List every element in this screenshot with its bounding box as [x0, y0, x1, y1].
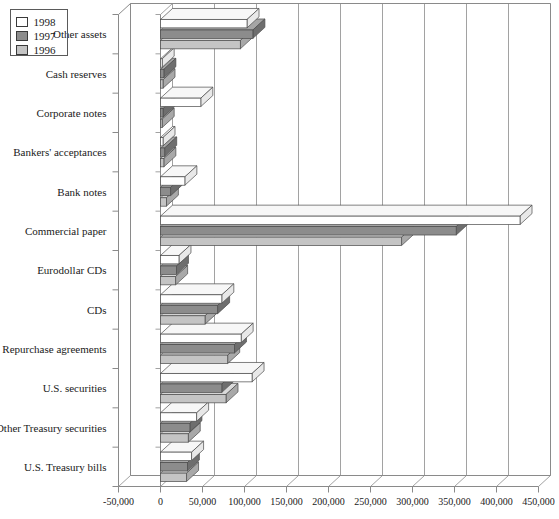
bar-front-face: [161, 266, 177, 274]
bar-front-face: [161, 305, 218, 313]
bar-front-face: [161, 227, 457, 235]
bar-front-face: [161, 109, 164, 117]
category-label: Eurodollar CDs: [37, 264, 106, 276]
x-tick-label: 150,000: [270, 496, 303, 507]
x-tick-label: -50,000: [103, 496, 134, 507]
bar-front-face: [161, 334, 242, 342]
category-label: Other Treasury securities: [0, 422, 107, 434]
legend-swatch: [17, 32, 28, 41]
x-tick-label: 450,000: [522, 496, 555, 507]
bar-front-face: [161, 98, 201, 106]
bar-front-face: [161, 148, 165, 156]
bar-front-face: [161, 19, 248, 27]
bar-front-face: [161, 40, 241, 48]
bar-front-face: [161, 255, 179, 263]
chart-canvas: Other assetsCash reservesCorporate notes…: [0, 0, 559, 519]
bar-front-face: [161, 237, 402, 245]
bar-front-face: [161, 316, 206, 324]
x-tick-label: 250,000: [354, 496, 387, 507]
bar-front-face: [161, 198, 167, 206]
bar-front-face: [161, 434, 189, 442]
bar-top-face: [161, 323, 254, 334]
bar-front-face: [161, 69, 164, 77]
category-label: Corporate notes: [37, 107, 107, 119]
gridline-floor-connector: [455, 476, 467, 487]
legend-swatch: [17, 46, 28, 55]
y-axis-top-connector: [119, 4, 131, 15]
category-label: Other assets: [53, 28, 106, 40]
x-tick-label: 350,000: [438, 496, 471, 507]
bar-front-face: [161, 473, 187, 481]
bar-front-face: [161, 413, 197, 421]
x-tick-label: 50,000: [189, 496, 217, 507]
bar-front-face: [161, 158, 164, 166]
x-tick-label: 0: [158, 496, 163, 507]
category-label: Commercial paper: [25, 225, 107, 237]
x-tick-label: 300,000: [396, 496, 429, 507]
x-tick-label: 400,000: [480, 496, 513, 507]
gridline-floor-connector: [539, 476, 551, 487]
bar-front-face: [161, 119, 163, 127]
category-label: Repurchase agreements: [2, 343, 106, 355]
legend-label: 1998: [34, 16, 57, 28]
bar-front-face: [161, 177, 185, 185]
bar-top-face: [161, 205, 533, 216]
bar-3d: [161, 284, 234, 303]
bar-front-face: [161, 295, 222, 303]
bar-group: [161, 8, 533, 481]
bar-top-face: [161, 362, 265, 373]
gridline-floor-connector: [287, 476, 299, 487]
bar-front-face: [161, 276, 176, 284]
gridline-floor-connector: [413, 476, 425, 487]
category-label: Bankers' acceptances: [13, 146, 106, 158]
bar-3d: [161, 362, 265, 381]
category-labels: Other assetsCash reservesCorporate notes…: [0, 28, 107, 473]
legend-label: 1996: [34, 44, 57, 56]
gridline-floor-connector: [245, 476, 257, 487]
category-ticks: [113, 15, 161, 487]
bar-front-face: [161, 187, 171, 195]
bar-3d: [161, 8, 260, 27]
category-label: Bank notes: [57, 186, 106, 198]
category-label: Cash reserves: [46, 68, 107, 80]
bar-front-face: [161, 355, 228, 363]
category-label: U.S. Treasury bills: [24, 461, 107, 473]
bar-front-face: [161, 30, 253, 38]
bar-front-face: [161, 423, 190, 431]
bar-3d: [161, 87, 213, 106]
bar-front-face: [161, 80, 164, 88]
bar-front-face: [161, 384, 222, 392]
legend-label: 1997: [34, 30, 57, 42]
category-label: U.S. securities: [43, 382, 107, 394]
bar-3d: [161, 323, 254, 342]
gridline-floor-connector: [329, 476, 341, 487]
gridline-floor-connector: [119, 476, 131, 487]
x-tick-label: 200,000: [312, 496, 345, 507]
bar-front-face: [161, 394, 227, 402]
bar-3d: [161, 166, 197, 185]
bar-top-face: [161, 8, 260, 19]
bar-top-face: [161, 284, 234, 295]
x-axis: -50,000050,000100,000150,000200,000250,0…: [103, 487, 555, 507]
gridline-floor-connector: [203, 476, 215, 487]
x-tick-label: 100,000: [228, 496, 261, 507]
bar-front-face: [161, 59, 163, 67]
legend-swatch: [17, 18, 28, 27]
gridline-floor-connector: [497, 476, 509, 487]
bar-front-face: [161, 345, 235, 353]
bar-front-face: [161, 137, 164, 145]
gridline-floor-connector: [371, 476, 383, 487]
bar-front-face: [161, 373, 253, 381]
bar-chart: Other assetsCash reservesCorporate notes…: [0, 0, 559, 519]
bar-front-face: [161, 452, 192, 460]
bar-front-face: [161, 463, 188, 471]
bar-3d: [161, 205, 533, 224]
bar-front-face: [161, 216, 521, 224]
category-label: CDs: [87, 304, 107, 316]
